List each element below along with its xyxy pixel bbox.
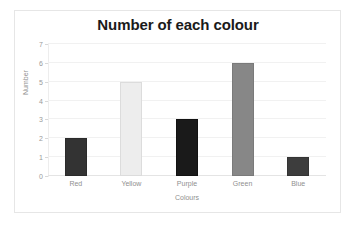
y-axis-tick-labels: 01234567 xyxy=(30,44,43,176)
bar-slot xyxy=(104,44,160,176)
y-axis-tick-label: 6 xyxy=(39,59,43,66)
plot-area xyxy=(48,44,326,176)
y-axis-tick-label: 0 xyxy=(39,173,43,180)
x-axis-tick-labels: RedYellowPurpleGreenBlue xyxy=(48,180,326,187)
x-axis-tick-label-blue: Blue xyxy=(270,180,326,187)
y-axis-title: Number xyxy=(22,70,29,95)
bar-blue[interactable] xyxy=(287,157,309,176)
bar-green[interactable] xyxy=(232,63,254,176)
bar-purple[interactable] xyxy=(176,119,198,176)
bar-slot xyxy=(159,44,215,176)
x-axis-tick-label-green: Green xyxy=(215,180,271,187)
bar-slot xyxy=(215,44,271,176)
y-axis-tick-label: 1 xyxy=(39,154,43,161)
y-axis-tick-label: 4 xyxy=(39,97,43,104)
chart-screenshot: Number of each colour Number 01234567 Re… xyxy=(0,0,356,226)
bar-slot xyxy=(270,44,326,176)
bar-red[interactable] xyxy=(65,138,87,176)
bar-slot xyxy=(48,44,104,176)
chart-title: Number of each colour xyxy=(0,16,356,33)
x-axis-title: Colours xyxy=(48,194,326,201)
y-axis-tick-label: 3 xyxy=(39,116,43,123)
x-axis-tick-label-red: Red xyxy=(48,180,104,187)
y-axis-tick-label: 2 xyxy=(39,135,43,142)
y-axis-tick-mark xyxy=(45,176,48,177)
y-axis-tick-label: 7 xyxy=(39,41,43,48)
bar-yellow[interactable] xyxy=(120,82,142,176)
bar-series xyxy=(48,44,326,176)
y-axis-tick-label: 5 xyxy=(39,78,43,85)
x-axis-tick-label-yellow: Yellow xyxy=(104,180,160,187)
x-axis-tick-label-purple: Purple xyxy=(159,180,215,187)
